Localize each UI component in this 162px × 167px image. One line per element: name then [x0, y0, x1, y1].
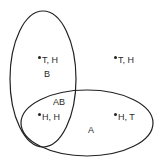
- point-dot-icon: [38, 56, 41, 59]
- point-dot-icon: [114, 56, 117, 59]
- set-a-label: A: [88, 125, 94, 135]
- point-dot-icon: [38, 113, 41, 116]
- set-b-label: B: [44, 69, 50, 79]
- point-outside: T, H: [114, 55, 134, 65]
- intersection-label: AB: [53, 97, 65, 107]
- set-a-ellipse: [21, 90, 153, 156]
- venn-diagram: [0, 0, 162, 167]
- point-dot-icon: [114, 113, 117, 116]
- point-a-only: H, T: [114, 112, 135, 122]
- set-b-ellipse: [10, 11, 76, 147]
- point-b-only: T, H: [38, 55, 58, 65]
- point-ab: H, H: [38, 112, 60, 122]
